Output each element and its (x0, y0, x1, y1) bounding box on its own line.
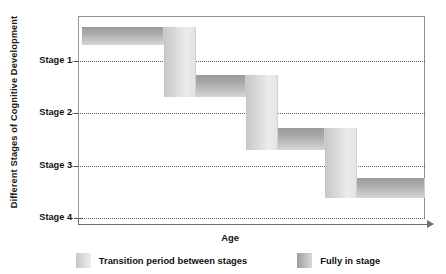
legend-swatch-fully (297, 253, 312, 268)
stage-4-plateau-bar (357, 178, 425, 198)
legend-swatch-transition (76, 253, 91, 268)
y-axis-tick-label: Stage 1 (14, 55, 72, 65)
transition-3-riser-bar (325, 128, 357, 198)
gridline-3 (72, 166, 425, 167)
gridline-4 (72, 218, 425, 219)
y-axis-tick-label: Stage 4 (14, 212, 72, 222)
legend-item-transition: Transition period between stages (76, 253, 247, 268)
y-axis-tick-label: Stage 2 (14, 107, 72, 117)
legend-label: Transition period between stages (99, 255, 247, 266)
y-axis-tick-label: Stage 3 (14, 160, 72, 170)
legend-item-fully: Fully in stage (297, 253, 380, 268)
chart-legend: Transition period between stagesFully in… (0, 249, 446, 271)
x-axis-arrow-icon (427, 220, 434, 228)
gridline-1 (72, 61, 425, 62)
plot-area (78, 16, 425, 218)
x-axis-title: Age (0, 232, 446, 243)
stage-2-plateau-bar (196, 75, 246, 97)
stage-3-plateau-bar (278, 128, 325, 150)
x-axis-origin-tick (78, 218, 79, 225)
legend-label: Fully in stage (320, 255, 380, 266)
transition-1-riser-bar (164, 27, 196, 97)
cognitive-development-stage-chart: Different Stages of Cognitive Developmen… (0, 0, 446, 274)
transition-2-riser-bar (246, 75, 278, 150)
x-axis-line (78, 224, 428, 225)
stage-1-plateau-bar (82, 27, 164, 45)
